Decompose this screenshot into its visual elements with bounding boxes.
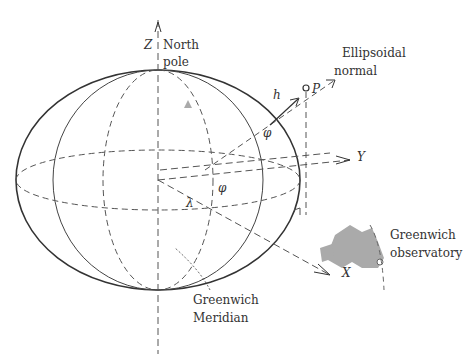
greenwich-observatory-label-1: Greenwich <box>390 228 456 243</box>
y-axis-label: Y <box>357 150 365 165</box>
point-p <box>303 85 309 91</box>
y-axis <box>158 160 350 180</box>
height-label: h <box>273 88 281 103</box>
point-p-label: P <box>312 82 320 97</box>
ellipsoidal-normal-label-2: normal <box>334 64 377 79</box>
latitude-label: φ <box>218 181 226 196</box>
greenwich-meridian-label-1: Greenwich <box>193 293 259 308</box>
ellipsoidal-normal-label-1: Ellipsoidal <box>342 46 406 61</box>
x-axis-label: X <box>342 266 351 281</box>
latitude-label-2: φ <box>263 126 271 141</box>
x-axis <box>158 180 330 275</box>
north-pole-label-2: pole <box>163 55 189 70</box>
greenwich-observatory-label-2: observatory <box>390 246 462 261</box>
longitude-label: λ <box>186 196 194 211</box>
greenwich-meridian-label-2: Meridian <box>193 311 248 326</box>
uk-landmass <box>328 225 384 268</box>
z-axis-label: Z <box>144 38 152 53</box>
north-pole-label-1: North <box>163 38 199 53</box>
greenwich-observatory-marker <box>377 259 383 265</box>
uk-small-landmass <box>184 100 192 108</box>
